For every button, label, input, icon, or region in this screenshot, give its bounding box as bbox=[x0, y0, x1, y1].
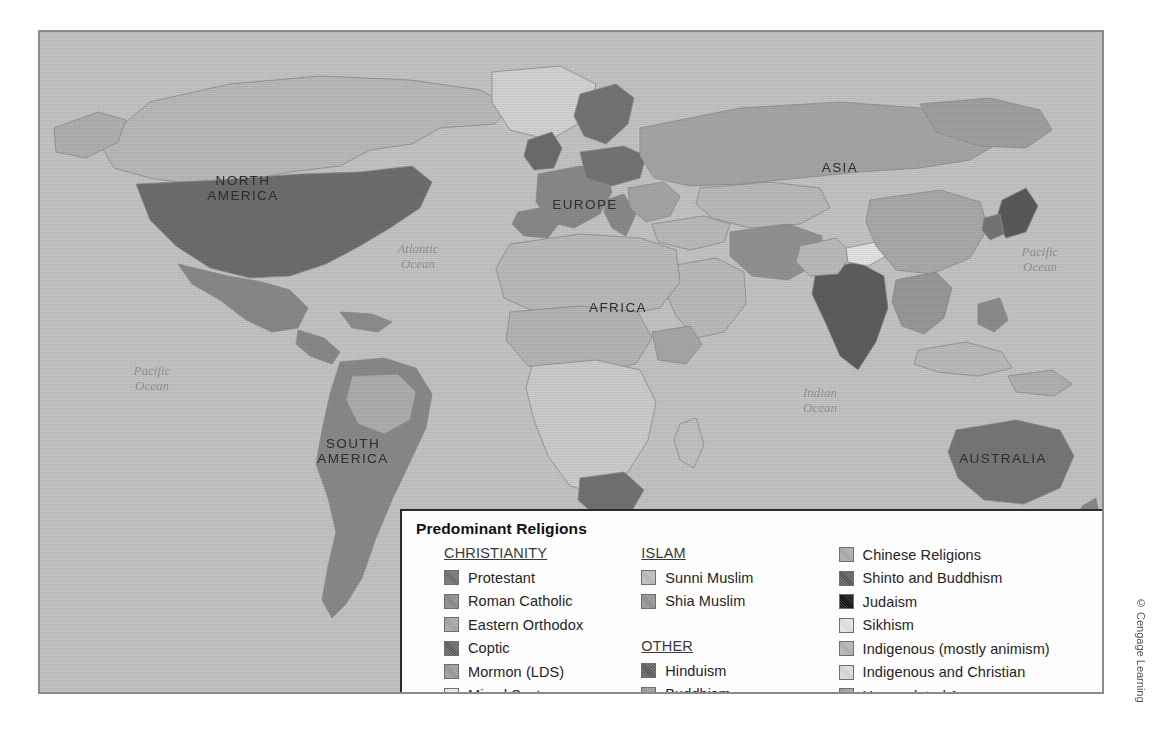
legend-title: Predominant Religions bbox=[416, 520, 1104, 538]
legend-column-christianity: CHRISTIANITY ProtestantRoman CatholicEas… bbox=[416, 543, 641, 694]
map-label-pacific-ocean-west: Pacific Ocean bbox=[112, 363, 192, 393]
legend-item-label: Eastern Orthodox bbox=[468, 617, 583, 633]
legend-item-label: Unpopulated Areas bbox=[863, 688, 988, 694]
legend-item: Protestant bbox=[444, 566, 641, 590]
legend-swatch-icon bbox=[839, 665, 854, 680]
legend-heading-other: OTHER bbox=[641, 636, 838, 659]
legend-item-label: Sikhism bbox=[863, 617, 914, 633]
legend-items-islam: Sunni MuslimShia Muslim bbox=[641, 566, 838, 613]
legend-item: Coptic bbox=[444, 637, 641, 661]
legend-swatch-icon bbox=[444, 617, 459, 632]
legend-swatch-icon bbox=[444, 688, 459, 694]
legend-item-label: Indigenous (mostly animism) bbox=[863, 641, 1050, 657]
legend-item: Roman Catholic bbox=[444, 590, 641, 614]
landmass-madagascar bbox=[674, 418, 704, 468]
legend-items-other-religions: Chinese ReligionsShinto and BuddhismJuda… bbox=[839, 543, 1104, 694]
legend-panel: Predominant Religions CHRISTIANITY Prote… bbox=[400, 509, 1104, 694]
legend-swatch-icon bbox=[444, 641, 459, 656]
landmass-new-guinea bbox=[1008, 370, 1072, 396]
legend-heading-islam: ISLAM bbox=[641, 543, 838, 566]
legend-item: Sikhism bbox=[839, 614, 1104, 638]
legend-swatch-icon bbox=[839, 618, 854, 633]
legend-item-label: Coptic bbox=[468, 640, 510, 656]
legend-item: Unpopulated Areas bbox=[839, 684, 1104, 694]
legend-swatch-icon bbox=[444, 570, 459, 585]
landmass-balkans-orthodox bbox=[628, 182, 680, 222]
legend-item: Eastern Orthodox bbox=[444, 613, 641, 637]
legend-items-other: HinduismBuddhism bbox=[641, 659, 838, 694]
legend-heading-christianity: CHRISTIANITY bbox=[444, 543, 641, 566]
page-root: NORTH AMERICASOUTH AMERICAEUROPEAFRICAAS… bbox=[0, 0, 1153, 737]
legend-item: Indigenous and Christian bbox=[839, 661, 1104, 685]
legend-swatch-icon bbox=[839, 547, 854, 562]
legend-swatch-icon bbox=[444, 594, 459, 609]
legend-swatch-icon bbox=[444, 664, 459, 679]
legend-swatch-icon bbox=[641, 570, 656, 585]
legend-swatch-icon bbox=[641, 594, 656, 609]
legend-swatch-icon bbox=[839, 688, 854, 694]
legend-item: Hinduism bbox=[641, 659, 838, 683]
landmass-scandinavia bbox=[574, 84, 634, 144]
legend-swatch-icon bbox=[641, 663, 656, 678]
legend-columns: CHRISTIANITY ProtestantRoman CatholicEas… bbox=[416, 543, 1104, 694]
map-label-south-america: SOUTH AMERICA bbox=[298, 436, 408, 466]
legend-item-label: Protestant bbox=[468, 570, 535, 586]
map-label-asia: ASIA bbox=[800, 160, 880, 175]
legend-item: Indigenous (mostly animism) bbox=[839, 637, 1104, 661]
map-label-pacific-ocean-east: Pacific Ocean bbox=[1000, 244, 1080, 274]
legend-item: Judaism bbox=[839, 590, 1104, 614]
legend-item: Chinese Religions bbox=[839, 543, 1104, 567]
legend-column-other-religions: Chinese ReligionsShinto and BuddhismJuda… bbox=[839, 543, 1104, 694]
legend-item-label: Mormon (LDS) bbox=[468, 664, 564, 680]
world-map: NORTH AMERICASOUTH AMERICAEUROPEAFRICAAS… bbox=[38, 30, 1104, 694]
legend-item-label: Shinto and Buddhism bbox=[863, 570, 1003, 586]
legend-swatch-icon bbox=[839, 594, 854, 609]
legend-item-label: Sunni Muslim bbox=[665, 570, 753, 586]
legend-item: Shia Muslim bbox=[641, 590, 838, 614]
landmass-korea bbox=[982, 214, 1004, 240]
landmass-turkey-anatolia bbox=[652, 216, 730, 250]
legend-items-christianity: ProtestantRoman CatholicEastern Orthodox… bbox=[444, 566, 641, 694]
legend-swatch-icon bbox=[839, 641, 854, 656]
legend-item: Buddhism bbox=[641, 683, 838, 695]
landmass-british-isles bbox=[524, 132, 562, 170]
legend-item-label: Mixed Sects bbox=[468, 687, 548, 694]
landmass-central-america bbox=[296, 330, 340, 364]
legend-item-label: Indigenous and Christian bbox=[863, 664, 1026, 680]
legend-item: Shinto and Buddhism bbox=[839, 567, 1104, 591]
landmass-sub-saharan-indigenous bbox=[526, 360, 656, 494]
legend-swatch-icon bbox=[641, 687, 656, 694]
landmass-india-hinduism bbox=[812, 262, 888, 370]
landmass-china-chinese-religions bbox=[866, 190, 988, 274]
legend-item-label: Chinese Religions bbox=[863, 547, 982, 563]
copyright-notice: © Cengage Learning bbox=[1135, 597, 1147, 703]
landmass-canada bbox=[100, 76, 510, 184]
landmass-indonesia-sunni bbox=[914, 342, 1012, 376]
legend-column-islam-other: ISLAM Sunni MuslimShia Muslim OTHER Hind… bbox=[641, 543, 838, 694]
legend-item-label: Hinduism bbox=[665, 663, 726, 679]
landmass-southeast-asia-buddhism bbox=[892, 272, 952, 334]
legend-item: Sunni Muslim bbox=[641, 566, 838, 590]
legend-gap bbox=[641, 613, 838, 636]
map-label-indian-ocean: Indian Ocean bbox=[780, 385, 860, 415]
landmass-caribbean bbox=[340, 312, 392, 332]
legend-item-label: Judaism bbox=[863, 594, 918, 610]
landmass-philippines bbox=[978, 298, 1008, 332]
legend-item-label: Shia Muslim bbox=[665, 593, 745, 609]
legend-item-label: Buddhism bbox=[665, 686, 730, 694]
map-label-north-america: NORTH AMERICA bbox=[188, 173, 298, 203]
map-label-africa: AFRICA bbox=[573, 300, 663, 315]
map-label-atlantic-ocean: Atlantic Ocean bbox=[378, 241, 458, 271]
legend-item: Mixed Sects bbox=[444, 684, 641, 695]
map-label-europe: EUROPE bbox=[540, 197, 630, 212]
legend-item-label: Roman Catholic bbox=[468, 593, 573, 609]
map-label-australia: AUSTRALIA bbox=[948, 451, 1058, 466]
legend-swatch-icon bbox=[839, 571, 854, 586]
legend-item: Mormon (LDS) bbox=[444, 660, 641, 684]
